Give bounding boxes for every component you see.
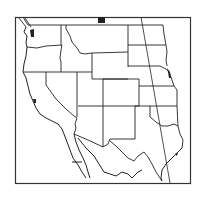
kansas-east-border [174,86,177,106]
state-north-dakota [128,25,166,45]
california-coast [23,72,64,134]
state-oregon [23,45,62,72]
oklahoma-east-border [177,106,178,126]
state-nebraska [139,68,174,86]
oregon-coast [23,47,27,72]
washington-coast [24,27,27,47]
state-texas [161,126,183,181]
sd-nebraska-border [128,66,169,72]
state-montana [92,25,128,67]
texas-gulf-coast [161,152,178,181]
galveston-bay-icon [175,152,178,156]
nd-east-border [163,25,166,45]
state-colorado [103,79,139,106]
washington-oregon-border [27,45,62,48]
mexico-gulf-coast [110,170,142,178]
state-wyoming [92,53,128,79]
oklahoma-texas-border [150,106,178,126]
bc-coast-line [19,18,31,27]
california-nevada-border [46,72,77,118]
nebraska-east-border [169,72,174,86]
california-arizona-border [74,118,77,134]
texas-east-border [178,126,183,152]
state-california [23,72,77,134]
baja-west-coast [64,134,86,178]
oregon-idaho-border [60,45,62,72]
sd-east-border [166,45,167,66]
state-utah [78,79,139,106]
state-washington [24,25,62,48]
state-idaho [61,25,92,72]
sonora-coast [78,138,110,174]
map-canvas: Western United States [0,0,202,203]
state-new-mexico [110,106,135,139]
state-oklahoma [150,106,178,126]
state-nevada [46,72,77,118]
lake-icon [98,17,105,23]
mexico-border [74,134,162,181]
idaho-montana-border [66,25,92,54]
puget-sound-icon [30,29,34,37]
montana-south-border [92,52,128,53]
